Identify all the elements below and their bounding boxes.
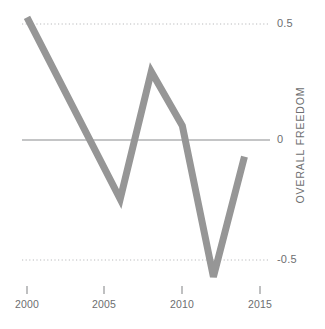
xtick-label-2000: 2000	[15, 299, 39, 310]
chart-container: 0.5 0 -0.5 2000 2005 2010 2015 OVERALL F…	[0, 0, 325, 329]
xtick-label-2010: 2010	[170, 299, 194, 310]
data-series-line	[27, 17, 244, 277]
ytick-label-minus-0.5: -0.5	[277, 254, 297, 265]
line-chart-plot	[0, 0, 325, 329]
y-axis-title: OVERALL FREEDOM	[295, 87, 306, 204]
ytick-label-0: 0	[277, 134, 283, 145]
ytick-label-0.5: 0.5	[277, 18, 293, 29]
xtick-label-2015: 2015	[248, 299, 272, 310]
xtick-label-2005: 2005	[92, 299, 116, 310]
